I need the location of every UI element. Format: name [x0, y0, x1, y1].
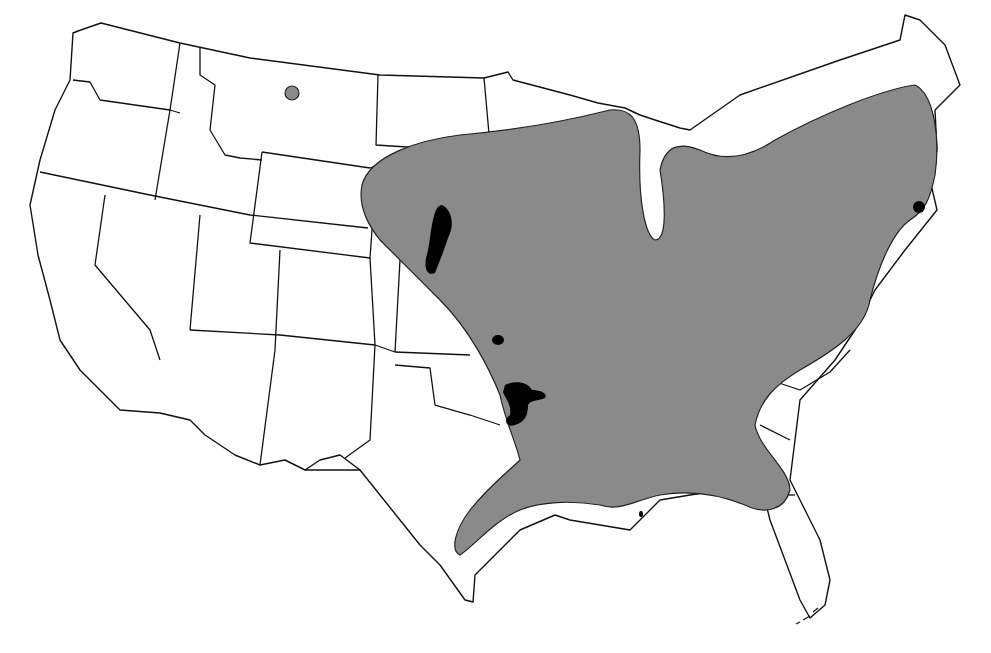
core-area-kansas	[492, 335, 504, 345]
core-area-new-jersey	[913, 201, 925, 213]
disjunct-population-montana	[285, 86, 299, 100]
core-area-louisiana-coast	[639, 511, 643, 517]
us-range-map	[0, 0, 991, 653]
